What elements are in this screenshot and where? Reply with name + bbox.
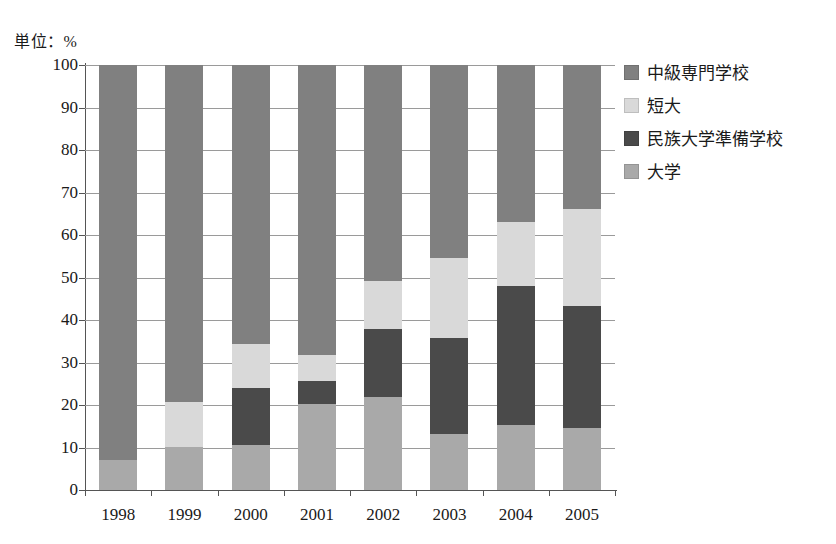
y-axis-tick-label: 0 bbox=[32, 481, 78, 498]
x-axis-label-2003: 2003 bbox=[414, 505, 484, 525]
x-axis-tick bbox=[85, 490, 86, 496]
y-axis-tick-label: 80 bbox=[32, 141, 78, 158]
bar-segment[interactable] bbox=[364, 281, 402, 329]
x-axis-tick bbox=[151, 490, 152, 496]
x-axis-label-2002: 2002 bbox=[348, 505, 418, 525]
y-axis-tick-label: 20 bbox=[32, 396, 78, 413]
y-axis-tick-label: 30 bbox=[32, 354, 78, 371]
bar-segment[interactable] bbox=[298, 355, 336, 381]
legend-label: 大学 bbox=[647, 163, 681, 181]
x-axis-line bbox=[85, 490, 617, 491]
y-axis-tick bbox=[79, 320, 85, 321]
legend-item-2[interactable]: 民族大学準備学校 bbox=[624, 122, 830, 155]
bar-segment[interactable] bbox=[232, 388, 270, 446]
y-axis-tick bbox=[79, 65, 85, 66]
legend-item-0[interactable]: 中級専門学校 bbox=[624, 56, 830, 89]
legend-swatch-icon bbox=[624, 164, 639, 179]
bar-segment[interactable] bbox=[497, 286, 535, 425]
x-axis-label-1998: 1998 bbox=[83, 505, 153, 525]
bar-segment[interactable] bbox=[298, 404, 336, 490]
y-axis-tick-label: 60 bbox=[32, 226, 78, 243]
stacked-bar-chart: 単位：% 0102030405060708090100 199819992000… bbox=[0, 0, 836, 544]
bar-segment[interactable] bbox=[364, 397, 402, 490]
bar-segment[interactable] bbox=[430, 258, 468, 338]
plot-area bbox=[85, 65, 615, 490]
bar-segment[interactable] bbox=[298, 65, 336, 355]
y-axis-tick-label: 10 bbox=[32, 439, 78, 456]
y-axis-tick-label: 100 bbox=[32, 56, 78, 73]
bar-1999[interactable] bbox=[165, 65, 203, 490]
y-axis-tick-label: 90 bbox=[32, 99, 78, 116]
y-axis-tick-label: 70 bbox=[32, 184, 78, 201]
x-axis-label-2000: 2000 bbox=[216, 505, 286, 525]
bar-segment[interactable] bbox=[165, 402, 203, 447]
bar-segment[interactable] bbox=[165, 65, 203, 402]
x-axis-tick bbox=[218, 490, 219, 496]
y-axis-tick-label: 40 bbox=[32, 311, 78, 328]
bar-2003[interactable] bbox=[430, 65, 468, 490]
unit-label: 単位：% bbox=[14, 28, 77, 52]
bar-1998[interactable] bbox=[99, 65, 137, 490]
legend-item-3[interactable]: 大学 bbox=[624, 155, 830, 188]
y-axis-tick bbox=[79, 235, 85, 236]
bar-2001[interactable] bbox=[298, 65, 336, 490]
bar-segment[interactable] bbox=[497, 222, 535, 286]
y-axis-tick bbox=[79, 150, 85, 151]
bar-segment[interactable] bbox=[99, 65, 137, 460]
bar-segment[interactable] bbox=[563, 65, 601, 209]
bar-segment[interactable] bbox=[298, 381, 336, 404]
legend-item-1[interactable]: 短大 bbox=[624, 89, 830, 122]
bar-segment[interactable] bbox=[430, 434, 468, 490]
bar-segment[interactable] bbox=[232, 344, 270, 387]
x-axis-tick bbox=[416, 490, 417, 496]
bar-segment[interactable] bbox=[563, 428, 601, 490]
x-axis-label-2005: 2005 bbox=[547, 505, 617, 525]
x-axis-tick bbox=[615, 490, 616, 496]
y-axis-tick-label: 50 bbox=[32, 269, 78, 286]
x-axis-label-2004: 2004 bbox=[481, 505, 551, 525]
bar-segment[interactable] bbox=[497, 425, 535, 490]
bar-segment[interactable] bbox=[430, 65, 468, 258]
bar-segment[interactable] bbox=[99, 460, 137, 490]
legend-swatch-icon bbox=[624, 131, 639, 146]
legend-label: 民族大学準備学校 bbox=[647, 130, 783, 148]
y-axis-tick bbox=[79, 405, 85, 406]
bar-2000[interactable] bbox=[232, 65, 270, 490]
x-axis-label-2001: 2001 bbox=[282, 505, 352, 525]
legend-label: 中級専門学校 bbox=[647, 64, 749, 82]
bar-segment[interactable] bbox=[563, 306, 601, 428]
y-axis-tick bbox=[79, 448, 85, 449]
bar-segment[interactable] bbox=[364, 329, 402, 397]
legend-swatch-icon bbox=[624, 65, 639, 80]
y-axis-tick bbox=[79, 108, 85, 109]
bar-segment[interactable] bbox=[232, 65, 270, 344]
legend-swatch-icon bbox=[624, 98, 639, 113]
bar-2002[interactable] bbox=[364, 65, 402, 490]
y-axis-tick bbox=[79, 278, 85, 279]
legend: 中級専門学校短大民族大学準備学校大学 bbox=[624, 56, 830, 188]
bar-segment[interactable] bbox=[364, 65, 402, 281]
bar-segment[interactable] bbox=[165, 447, 203, 490]
bar-segment[interactable] bbox=[232, 445, 270, 490]
x-axis-tick bbox=[350, 490, 351, 496]
y-axis-tick bbox=[79, 193, 85, 194]
bar-2005[interactable] bbox=[563, 65, 601, 490]
bar-segment[interactable] bbox=[563, 209, 601, 306]
x-axis-tick bbox=[284, 490, 285, 496]
x-axis-label-1999: 1999 bbox=[149, 505, 219, 525]
bar-segment[interactable] bbox=[497, 65, 535, 222]
y-axis-tick bbox=[79, 363, 85, 364]
x-axis-tick bbox=[483, 490, 484, 496]
bar-2004[interactable] bbox=[497, 65, 535, 490]
bar-segment[interactable] bbox=[430, 338, 468, 434]
legend-label: 短大 bbox=[647, 97, 681, 115]
x-axis-tick bbox=[549, 490, 550, 496]
